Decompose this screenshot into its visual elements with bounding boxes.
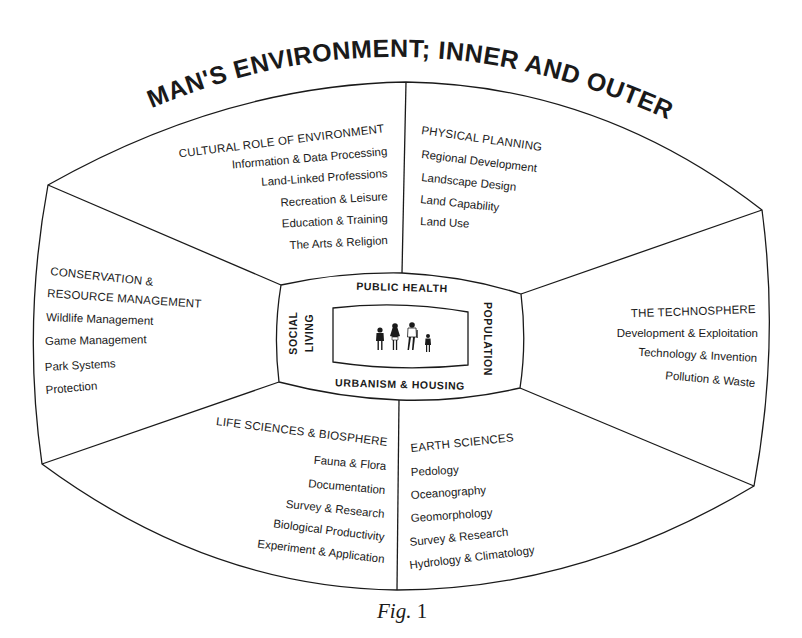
list-item: Technology & Invention xyxy=(638,346,757,364)
list-item: Pedology xyxy=(410,463,459,478)
label-social: SOCIAL xyxy=(287,311,299,354)
list-item: Land Use xyxy=(420,215,470,230)
list-item: Land Capability xyxy=(420,193,500,213)
list-item: Biological Productivity xyxy=(273,517,386,543)
list-item: Experiment & Application xyxy=(257,537,385,564)
list-item: Recreation & Leisure xyxy=(280,190,388,209)
list-item: Land-Linked Professions xyxy=(261,167,388,188)
section-heading: EARTH SCIENCES xyxy=(410,431,514,454)
list-item: Development & Exploitation xyxy=(617,327,758,339)
list-item: Protection xyxy=(45,380,98,396)
list-item: Regional Development xyxy=(421,148,539,174)
section-heading: LIFE SCIENCES & BIOSPHERE xyxy=(216,415,389,448)
label-population: POPULATION xyxy=(482,302,494,376)
section-heading: PHYSICAL PLANNING xyxy=(421,124,543,153)
divider-top xyxy=(402,82,406,273)
section-heading: CONSERVATION & xyxy=(50,265,155,288)
label-living: LIVING xyxy=(303,314,315,353)
section-heading: RESOURCE MANAGEMENT xyxy=(47,287,202,310)
list-item: Fauna & Flora xyxy=(313,454,387,472)
list-item: Landscape Design xyxy=(421,171,517,193)
section-physical: PHYSICAL PLANNING Regional Development L… xyxy=(420,124,543,229)
list-item: Wildlife Management xyxy=(46,311,155,327)
label-urbanism-housing: URBANISM & HOUSING xyxy=(335,376,465,391)
section-life-sciences: LIFE SCIENCES & BIOSPHERE Fauna & Flora … xyxy=(216,415,389,565)
diagram-title: MAN'S ENVIRONMENT; INNER AND OUTER xyxy=(143,34,678,125)
section-earth-sciences: EARTH SCIENCES Pedology Oceanography Geo… xyxy=(409,431,536,571)
section-conservation: CONSERVATION & RESOURCE MANAGEMENT Wildl… xyxy=(44,265,201,396)
list-item: Geomorphology xyxy=(410,506,493,524)
list-item: Survey & Research xyxy=(409,526,509,548)
section-heading: THE TECHNOSPHERE xyxy=(631,303,757,319)
divider-bottom xyxy=(397,400,399,590)
inner-rectangle xyxy=(333,305,468,368)
label-public-health: PUBLIC HEALTH xyxy=(356,280,448,294)
list-item: Park Systems xyxy=(44,357,116,373)
list-item: The Arts & Religion xyxy=(289,234,388,251)
divider-upper-right xyxy=(521,210,762,294)
list-item: Hydrology & Climatology xyxy=(409,544,536,571)
list-item: Documentation xyxy=(308,477,386,496)
figure-caption: Fig. 1 xyxy=(376,599,427,623)
family-figures-icon xyxy=(376,322,431,352)
section-technosphere: THE TECHNOSPHERE Development & Exploitat… xyxy=(617,303,758,389)
list-item: Pollution & Waste xyxy=(665,369,756,389)
list-item: Game Management xyxy=(45,333,148,347)
divider-lower-right xyxy=(520,388,754,486)
environment-diagram: MAN'S ENVIRONMENT; INNER AND OUTER xyxy=(0,0,802,638)
list-item: Survey & Research xyxy=(285,498,385,520)
list-item: Education & Training xyxy=(281,212,388,230)
list-item: Oceanography xyxy=(410,484,486,501)
